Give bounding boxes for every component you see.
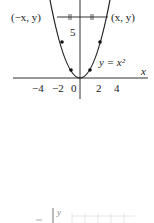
x-tick-2: 2 [96,82,102,94]
x-tick-neg2: −2 [52,82,64,94]
left-point-label: (−x, y) [11,11,41,24]
parabola-figure: (−x, y) (x, y) 5 y = x² x −4 −2 0 2 4 y [0,0,154,223]
x-tick-0: 0 [71,82,77,94]
right-point-label: (x, y) [111,11,135,24]
bottom-grid [72,213,135,223]
curve-label: y = x² [98,56,126,68]
bottom-y-axis-label: y [56,207,61,217]
x-tick-4: 4 [114,82,120,94]
x-tick-neg4: −4 [32,82,44,94]
y-tick-5: 5 [70,26,76,38]
x-axis-label: x [140,65,146,77]
bottom-graph: y [36,207,135,223]
